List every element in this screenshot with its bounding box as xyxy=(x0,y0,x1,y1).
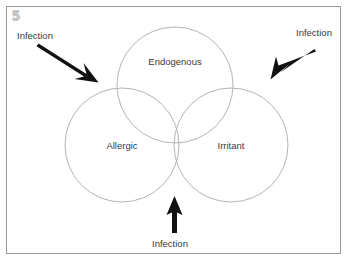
callout-label-infection-topleft: Infection xyxy=(17,30,53,41)
callout-label-infection-bottom: Infection xyxy=(152,238,188,249)
venn-label-allergic: Allergic xyxy=(106,140,137,151)
venn-label-irritant: Irritant xyxy=(218,140,245,151)
venn-label-endogenous: Endogenous xyxy=(148,56,201,67)
venn-circle-endogenous xyxy=(117,27,233,143)
arrow-infection-topright xyxy=(271,49,317,80)
figure-root: 5 Endogenous Allergic Irritant Infection… xyxy=(0,0,348,261)
callout-label-infection-topright: Infection xyxy=(296,27,332,38)
arrow-infection-topleft xyxy=(37,44,99,83)
arrow-infection-bottom xyxy=(167,196,183,233)
